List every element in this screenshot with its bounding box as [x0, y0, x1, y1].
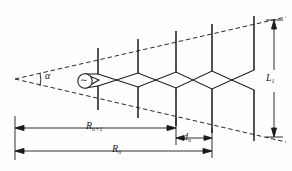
dimension-dn	[176, 136, 212, 141]
arrowhead-bottom-L1	[272, 128, 277, 137]
arrowhead-right-Rn1	[167, 125, 176, 130]
dn-subscript: n	[188, 136, 191, 143]
radius-n-label: Rn	[112, 143, 121, 154]
log-periodic-antenna-figure: α L1 Rn+1 dn Rn ∼	[0, 0, 292, 171]
envelope-dashed-lines	[15, 17, 286, 142]
apex-angle-label: α	[45, 70, 50, 81]
lower-envelope-line	[15, 79, 286, 142]
transmission-feed-line	[98, 70, 254, 90]
longest-element-label: L1	[266, 72, 275, 83]
arrowhead-left-Rn1	[15, 125, 24, 130]
radius-n-plus-1-label: Rn+1	[86, 120, 102, 131]
figure-canvas	[0, 0, 292, 171]
arrowhead-right-Rn	[203, 148, 212, 153]
arrowhead-top-L1	[272, 20, 277, 29]
Rn-subscript: n	[118, 148, 121, 155]
L1-base: L	[266, 72, 272, 83]
apex-angle-arc	[40, 73, 41, 86]
L1-subscript: 1	[272, 77, 275, 84]
arrowhead-left-Rn	[15, 148, 24, 153]
Rn1-subscript: n+1	[92, 125, 102, 132]
arrowhead-right-dn	[204, 136, 212, 141]
upper-envelope-line	[15, 17, 286, 79]
source-symbol-label: ∼	[80, 75, 88, 85]
spacing-label: dn	[183, 131, 191, 142]
